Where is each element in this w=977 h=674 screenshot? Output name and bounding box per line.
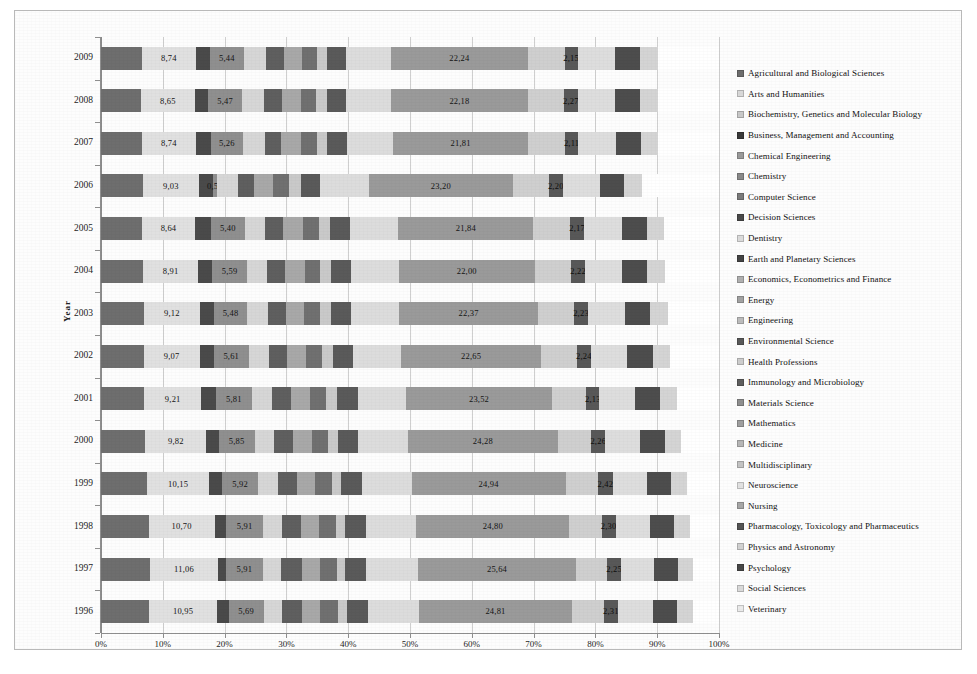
bar-segment[interactable]: 2,17 bbox=[570, 217, 583, 240]
bar-segment[interactable] bbox=[366, 515, 417, 538]
bar-segment[interactable] bbox=[660, 387, 677, 410]
bar-row[interactable]: 9,125,4822,372,23 bbox=[101, 292, 719, 335]
bar-segment[interactable] bbox=[671, 472, 686, 495]
bar-segment[interactable] bbox=[217, 174, 238, 197]
bar-segment[interactable] bbox=[353, 345, 401, 368]
bar-segment[interactable] bbox=[101, 345, 144, 368]
bar-segment[interactable] bbox=[101, 47, 142, 70]
bar-segment[interactable] bbox=[267, 260, 285, 283]
bar-segment[interactable] bbox=[101, 472, 147, 495]
bar-segment[interactable] bbox=[101, 600, 149, 623]
bar-segment[interactable] bbox=[578, 47, 615, 70]
bar-segment[interactable] bbox=[584, 217, 622, 240]
bar-segment[interactable] bbox=[258, 472, 277, 495]
bar-row[interactable]: 9,215,8123,522,13 bbox=[101, 378, 719, 421]
bar-segment[interactable] bbox=[245, 217, 265, 240]
bar-segment[interactable] bbox=[301, 89, 316, 112]
bar-segment[interactable] bbox=[301, 132, 316, 155]
bar-segment[interactable] bbox=[305, 260, 320, 283]
bar-segment[interactable] bbox=[350, 217, 398, 240]
bar-segment[interactable] bbox=[274, 430, 293, 453]
bar-segment[interactable]: 8,65 bbox=[141, 89, 194, 112]
bar-segment[interactable] bbox=[217, 600, 229, 623]
bar-segment[interactable] bbox=[670, 345, 719, 368]
bar-segment[interactable]: 24,94 bbox=[412, 472, 566, 495]
bar-segment[interactable] bbox=[677, 387, 719, 410]
bar-segment[interactable] bbox=[654, 558, 677, 581]
bar-segment[interactable] bbox=[304, 302, 320, 325]
bar-segment[interactable]: 2,20 bbox=[549, 174, 563, 197]
legend-item[interactable]: Health Professions bbox=[737, 351, 977, 372]
legend-item[interactable]: Medicine bbox=[737, 434, 977, 455]
bar-segment[interactable] bbox=[647, 217, 664, 240]
bar-row[interactable]: 11,065,9125,642,25 bbox=[101, 548, 719, 591]
bar-segment[interactable] bbox=[269, 345, 287, 368]
bar-segment[interactable] bbox=[693, 600, 719, 623]
legend-item[interactable]: Earth and Planetary Sciences bbox=[737, 248, 977, 269]
bar-segment[interactable] bbox=[264, 600, 283, 623]
bar-segment[interactable]: 2,22 bbox=[571, 260, 585, 283]
bar-segment[interactable]: 5,85 bbox=[219, 430, 255, 453]
bar-segment[interactable] bbox=[293, 430, 312, 453]
bar-segment[interactable] bbox=[533, 217, 570, 240]
bar-segment[interactable] bbox=[320, 302, 331, 325]
bar-segment[interactable] bbox=[101, 132, 142, 155]
bar-segment[interactable] bbox=[201, 387, 216, 410]
bar-segment[interactable] bbox=[320, 600, 338, 623]
legend-item[interactable]: Immunology and Microbiology bbox=[737, 372, 977, 393]
bar-row[interactable]: 8,915,5922,002,22 bbox=[101, 250, 719, 293]
bar-segment[interactable]: 5,92 bbox=[222, 472, 259, 495]
legend-item[interactable]: Dentistry bbox=[737, 228, 977, 249]
bar-segment[interactable]: 2,23 bbox=[574, 302, 588, 325]
bar-segment[interactable]: 2,26 bbox=[591, 430, 605, 453]
bar-segment[interactable] bbox=[627, 345, 652, 368]
bar-segment[interactable] bbox=[690, 515, 719, 538]
bar-row[interactable]: 9,030,5723,202,20 bbox=[101, 165, 719, 208]
legend-item[interactable]: Veterinary bbox=[737, 598, 977, 619]
bar-segment[interactable] bbox=[278, 472, 297, 495]
bar-segment[interactable] bbox=[600, 174, 625, 197]
bar-segment[interactable] bbox=[215, 515, 227, 538]
bar-segment[interactable] bbox=[615, 89, 640, 112]
bar-segment[interactable] bbox=[563, 174, 600, 197]
bar-segment[interactable] bbox=[640, 430, 665, 453]
bar-segment[interactable] bbox=[101, 302, 144, 325]
bar-segment[interactable] bbox=[333, 345, 353, 368]
bar-row[interactable]: 9,825,8524,282,26 bbox=[101, 420, 719, 463]
bar-segment[interactable]: 8,64 bbox=[142, 217, 195, 240]
bar-segment[interactable] bbox=[622, 217, 647, 240]
bar-segment[interactable] bbox=[263, 558, 282, 581]
bar-segment[interactable] bbox=[317, 132, 328, 155]
bar-segment[interactable]: 5,61 bbox=[214, 345, 249, 368]
legend-item[interactable]: Chemistry bbox=[737, 166, 977, 187]
bar-segment[interactable]: 2,42 bbox=[598, 472, 613, 495]
bar-segment[interactable] bbox=[640, 47, 657, 70]
bar-segment[interactable] bbox=[578, 89, 615, 112]
bar-segment[interactable] bbox=[541, 345, 577, 368]
bar-segment[interactable]: 9,07 bbox=[144, 345, 200, 368]
bar-segment[interactable] bbox=[578, 132, 616, 155]
bar-segment[interactable] bbox=[303, 217, 319, 240]
bar-segment[interactable] bbox=[282, 600, 302, 623]
bar-segment[interactable]: 5,44 bbox=[210, 47, 244, 70]
bar-segment[interactable] bbox=[310, 387, 326, 410]
bar-segment[interactable] bbox=[238, 174, 255, 197]
bar-segment[interactable] bbox=[588, 302, 625, 325]
bar-segment[interactable]: 22,00 bbox=[399, 260, 535, 283]
bar-segment[interactable] bbox=[302, 600, 320, 623]
bar-segment[interactable] bbox=[558, 430, 591, 453]
bar-segment[interactable]: 9,12 bbox=[144, 302, 200, 325]
bar-segment[interactable] bbox=[347, 132, 393, 155]
bar-segment[interactable] bbox=[336, 515, 345, 538]
bar-segment[interactable] bbox=[528, 132, 565, 155]
bar-segment[interactable]: 2,27 bbox=[564, 89, 578, 112]
bar-segment[interactable] bbox=[198, 260, 212, 283]
bar-segment[interactable] bbox=[265, 132, 281, 155]
bar-segment[interactable] bbox=[621, 558, 654, 581]
bar-segment[interactable] bbox=[284, 47, 303, 70]
bar-segment[interactable] bbox=[538, 302, 574, 325]
bar-segment[interactable] bbox=[642, 174, 719, 197]
bar-segment[interactable]: 8,74 bbox=[142, 47, 196, 70]
bar-segment[interactable] bbox=[312, 430, 329, 453]
bar-segment[interactable] bbox=[693, 558, 719, 581]
